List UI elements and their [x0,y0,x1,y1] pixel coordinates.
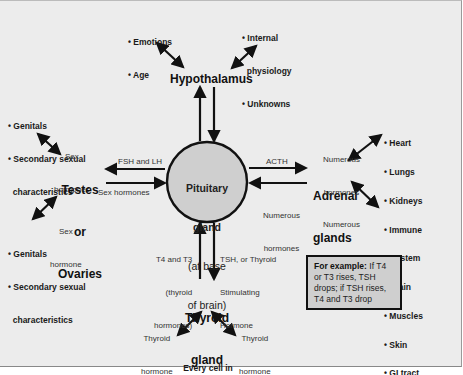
gonads-influences-bottom: • Genitals • Secondary sexual characteri… [8,227,86,348]
hypothalamus-node: Hypothalamus [170,72,245,86]
label-fsh-lh: FSH and LH [118,156,162,167]
every-cell-node: Every cell in the body [176,341,240,375]
label-thyroid-hormone-right: Thyroid hormone [239,311,271,375]
diagram-canvas: • Emotions • Age • Internal physiology •… [0,0,462,367]
label-acth: ACTH [266,156,288,167]
label-sex-hormones: Sex hormones [98,187,150,198]
example-box-heading: For example: [314,261,367,271]
label-thyroid-hormone-left: Thyroid hormone [141,311,173,375]
hypothalamus-influences-left: • Emotions • Age [128,15,172,103]
adrenal-target-organs: • Heart • Lungs • Kidneys • Immune syste… [384,120,444,375]
example-callout-box: For example: If T4 or T3 rises, TSH drop… [306,255,402,310]
